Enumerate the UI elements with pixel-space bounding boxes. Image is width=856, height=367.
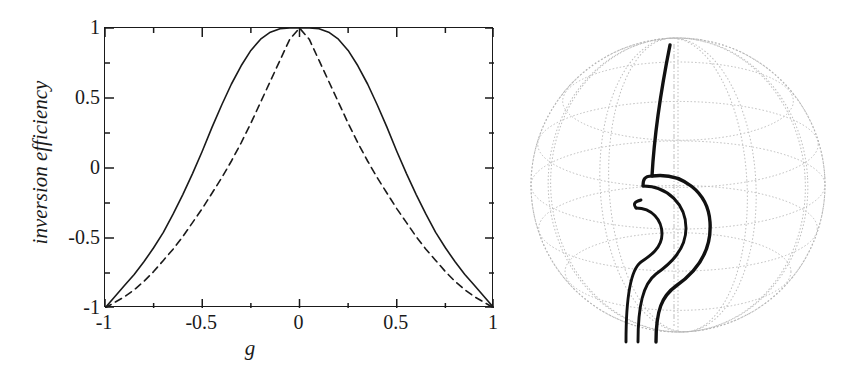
trajectory-join — [636, 186, 643, 208]
x-tick-label: 1 — [488, 311, 498, 333]
plot-frame — [104, 27, 493, 307]
sphere-grid-lines — [523, 30, 832, 339]
axis-ticks — [105, 28, 494, 308]
figure-root: inversion efficiency -1-0.500.51 -1-0.50… — [0, 0, 856, 367]
longitude-line — [540, 31, 815, 339]
y-axis-title: inversion efficiency — [28, 53, 53, 273]
plot-canvas — [105, 28, 494, 308]
series-line-solid — [105, 28, 494, 308]
x-tick-label: 0 — [294, 311, 304, 333]
inversion-efficiency-chart: inversion efficiency -1-0.500.51 -1-0.50… — [0, 0, 510, 367]
x-tick-label: -0.5 — [185, 311, 217, 333]
x-axis-title-text: g — [245, 336, 256, 360]
x-tick-label: -1 — [96, 311, 113, 333]
x-axis-title: g — [0, 336, 510, 361]
y-tick-label: 0.5 — [75, 87, 100, 107]
y-axis-tick-labels: -1-0.500.51 — [56, 0, 100, 367]
longitude-line — [523, 30, 832, 339]
trajectory-curve — [652, 45, 710, 342]
y-tick-label: 0 — [90, 157, 100, 177]
trajectory-join — [643, 176, 652, 186]
series-line-dashed — [105, 28, 494, 308]
data-series — [105, 28, 494, 308]
y-tick-label: 1 — [90, 17, 100, 37]
sphere-trajectory — [626, 45, 710, 342]
x-tick-label: 0.5 — [383, 311, 408, 333]
bloch-sphere-panel — [510, 0, 856, 367]
bloch-sphere-canvas — [510, 0, 856, 367]
y-tick-label: -0.5 — [68, 227, 100, 247]
